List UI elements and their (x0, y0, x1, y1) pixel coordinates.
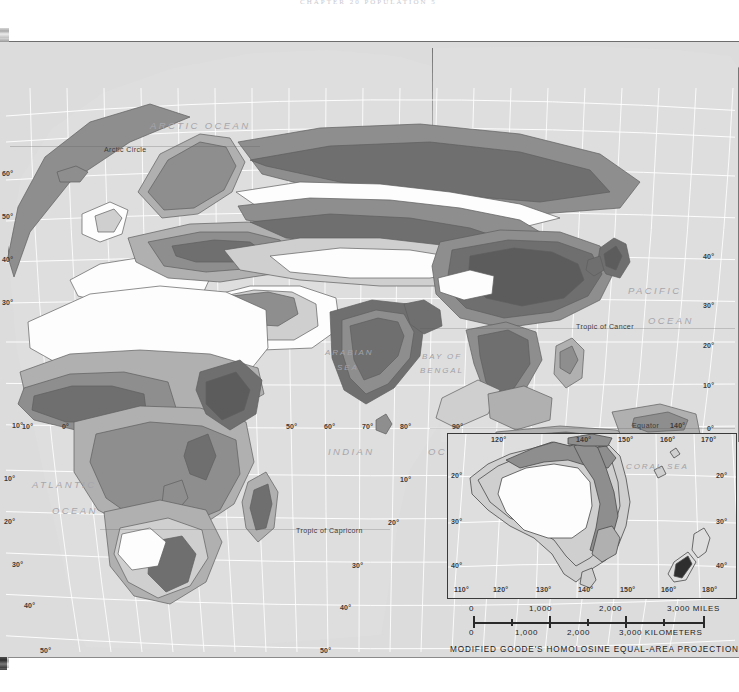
latitude-label: 30° (2, 299, 13, 306)
sea-label: BAY OF (422, 352, 462, 361)
longitude-label: 60° (324, 423, 335, 430)
ocean-label: OCEAN (52, 505, 98, 516)
longitude-label: 90° (452, 423, 463, 430)
scale-kilometers-label: 2,000 (567, 628, 590, 637)
latitude-label: 50° (2, 213, 13, 220)
latitude-label: 30° (12, 561, 23, 568)
latitude-label: 40° (2, 256, 13, 263)
latitude-label: 10° (400, 476, 411, 483)
inset-longitude-label: 130° (536, 586, 551, 593)
inset-longitude-label: 120° (493, 586, 508, 593)
longitude-label: 10° (22, 423, 33, 430)
sea-label: CORAL SEA (626, 462, 689, 471)
inset-latitude-label: 30° (716, 518, 727, 525)
inset-latitude-label: 40° (716, 562, 727, 569)
longitude-label: 80° (400, 423, 411, 430)
inset-longitude-label: 170° (701, 436, 716, 443)
latitude-label: 50° (40, 647, 51, 654)
latitude-label: 40° (703, 253, 714, 260)
longitude-label: 70° (362, 423, 373, 430)
scale-tick (625, 616, 627, 628)
reference-line-label: Tropic of Capricorn (296, 527, 363, 534)
latitude-label: 50° (320, 647, 331, 654)
latitude-label: 0° (707, 425, 714, 432)
latitude-label: 30° (352, 562, 363, 569)
scale-miles-label: 0 (469, 604, 474, 613)
ocean-label: INDIAN (328, 446, 375, 457)
scale-tick (473, 616, 475, 628)
latitude-label: 60° (2, 170, 13, 177)
latitude-label: 40° (340, 604, 351, 611)
ocean-label: OCEAN (648, 315, 694, 326)
footer-divider (8, 657, 739, 658)
ocean-label: ATLANTIC (32, 479, 96, 490)
inset-map-australia: 120°140°150°160°170° 110°120°130°140°150… (447, 433, 737, 599)
longitude-label: 140° (670, 422, 685, 429)
latitude-label: 20° (703, 342, 714, 349)
inset-longitude-label: 140° (576, 436, 591, 443)
scale-kilometers-label: 1,000 (515, 628, 538, 637)
projection-label: MODIFIED GOODE'S HOMOLOSINE EQUAL-AREA P… (450, 645, 734, 654)
inset-longitude-label: 160° (661, 586, 676, 593)
ocean-label: PACIFIC (628, 285, 682, 296)
scale-miles-label: 3,000 MILES (667, 604, 720, 613)
latitude-label: 10° (703, 382, 714, 389)
longitude-label: 50° (286, 423, 297, 430)
longitude-label: 0° (62, 423, 69, 430)
reference-line-label: Arctic Circle (104, 146, 147, 153)
inset-latitude-label: 40° (451, 562, 462, 569)
page-header-text: CHAPTER 20 POPULATION 5 (300, 0, 720, 8)
sea-label: ARABIAN (325, 348, 373, 357)
inset-latitude-label: 20° (451, 472, 462, 479)
scale-tick (703, 616, 705, 628)
inset-longitude-label: 180° (702, 586, 717, 593)
reference-line-label: Equator (632, 422, 659, 429)
sea-label: BENGAL (420, 366, 464, 375)
scale-miles-label: 2,000 (599, 604, 622, 613)
latitude-label: 10° (4, 475, 15, 482)
inset-longitude-label: 110° (454, 586, 469, 593)
inset-latitude-label: 20° (716, 472, 727, 479)
sea-label: SEA (337, 363, 359, 372)
inset-longitude-label: 150° (620, 586, 635, 593)
map-page: CHAPTER 20 POPULATION 5 (0, 0, 739, 692)
inset-longitude-label: 160° (660, 436, 675, 443)
latitude-label: 40° (24, 602, 35, 609)
scale-tick-minor (663, 619, 665, 626)
scale-miles-label: 1,000 (529, 604, 552, 613)
inset-density-zones (448, 434, 736, 598)
scale-kilometers-label: 3,000 KILOMETERS (619, 628, 702, 637)
scale-tick (549, 616, 551, 628)
inset-longitude-label: 120° (491, 436, 506, 443)
latitude-label: 20° (388, 519, 399, 526)
inset-latitude-label: 30° (451, 518, 462, 525)
ocean-label: ARCTIC OCEAN (150, 120, 251, 131)
inset-longitude-label: 150° (618, 436, 633, 443)
scale-tick-minor (511, 619, 513, 626)
latitude-label: 20° (4, 518, 15, 525)
reference-line-label: Tropic of Cancer (576, 323, 634, 330)
scale-kilometers-label: 0 (469, 628, 474, 637)
inset-longitude-label: 140° (578, 586, 593, 593)
equator-line (430, 428, 735, 429)
latitude-label: 30° (703, 302, 714, 309)
scale-tick-minor (587, 619, 589, 626)
